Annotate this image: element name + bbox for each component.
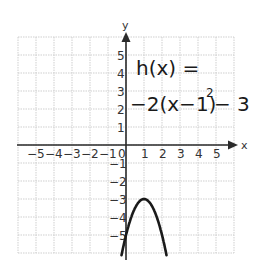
y-tick-label: −1 (109, 157, 127, 171)
x-axis-label: x (241, 139, 248, 152)
x-tick-label: −3 (63, 147, 81, 161)
y-tick-label: −2 (109, 175, 127, 189)
x-tick-label: −4 (45, 147, 63, 161)
y-axis-label: y (122, 19, 129, 32)
y-tick-label: −3 (109, 193, 127, 207)
y-tick-labels: 54321−1−2−3−4−5 (109, 49, 127, 243)
y-tick-label: 3 (117, 85, 125, 99)
x-tick-label: 3 (177, 147, 185, 161)
y-tick-label: −4 (109, 211, 127, 225)
annotation-exponent: 2 (206, 86, 214, 100)
x-axis-arrow-icon (228, 141, 238, 150)
x-tick-label: 2 (159, 147, 167, 161)
coordinate-plane: x y −5−4−3−2−1012345 54321−1−2−3−4−5 h(x… (0, 0, 270, 279)
annotation-line2-tail: − 3 (214, 92, 250, 116)
y-tick-label: 4 (117, 67, 125, 81)
x-tick-label: 1 (141, 147, 149, 161)
x-tick-label: −5 (27, 147, 45, 161)
function-annotation: h(x) = −2(x−1) 2 − 3 (130, 56, 250, 116)
y-tick-label: 1 (117, 121, 125, 135)
x-tick-label: 5 (213, 147, 221, 161)
annotation-line2: −2(x−1) (130, 92, 216, 116)
x-tick-label: 4 (195, 147, 203, 161)
y-tick-label: 5 (117, 49, 125, 63)
annotation-line1: h(x) = (136, 56, 199, 80)
x-tick-label: −2 (81, 147, 99, 161)
y-tick-label: 2 (117, 103, 125, 117)
